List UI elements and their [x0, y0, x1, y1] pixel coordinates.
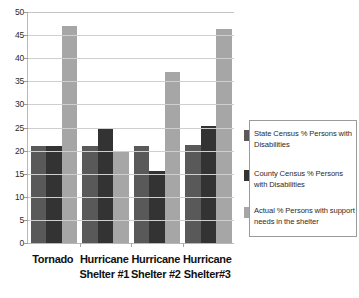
y-axis-tick-mark: [24, 35, 28, 36]
bar[interactable]: [165, 72, 181, 243]
category-label-line1: Hurricane: [80, 253, 129, 265]
legend-item[interactable]: Actual % Persons with support needs in t…: [250, 206, 358, 227]
y-axis-tick-label: 0: [0, 239, 24, 248]
bar-chart: 50454035302520151050 TornadoHurricaneShe…: [0, 0, 359, 298]
plot-wrapper: 50454035302520151050 TornadoHurricaneShe…: [0, 0, 240, 298]
x-axis-tick-mark: [131, 243, 132, 247]
legend-item[interactable]: County Census % Persons with Disabilitie…: [250, 169, 358, 190]
x-axis-tick-mark: [80, 243, 81, 247]
y-axis-tick-label: 20: [0, 147, 24, 156]
bar[interactable]: [216, 29, 232, 243]
legend-label: State Census % Persons with Disabilities: [254, 129, 358, 150]
gridline: [28, 151, 234, 152]
y-axis-tick-mark: [24, 58, 28, 59]
gridline: [28, 174, 234, 175]
y-axis-tick-label: 10: [0, 193, 24, 202]
y-axis-tick-label: 30: [0, 100, 24, 109]
bar[interactable]: [31, 146, 47, 243]
x-axis-tick-mark: [183, 243, 184, 247]
y-axis-tick-mark: [24, 220, 28, 221]
bar[interactable]: [98, 128, 114, 243]
y-axis-tick-label: 45: [0, 31, 24, 40]
legend-label: Actual % Persons with support needs in t…: [254, 206, 358, 227]
y-axis-tick-mark: [24, 81, 28, 82]
legend-color-swatch: [244, 170, 249, 181]
legend-item[interactable]: State Census % Persons with Disabilities: [250, 129, 358, 150]
y-axis-tick-label: 15: [0, 170, 24, 179]
gridline: [28, 104, 234, 105]
legend-color-swatch: [244, 207, 249, 218]
bar[interactable]: [185, 145, 201, 243]
category-label-line2: Shelter#3: [177, 267, 239, 282]
y-axis-tick-label: 35: [0, 77, 24, 86]
gridline: [28, 81, 234, 82]
gridline: [28, 128, 234, 129]
plot-area: [27, 12, 234, 244]
bar[interactable]: [134, 146, 150, 243]
y-axis-tick-mark: [24, 151, 28, 152]
y-axis-tick-labels: 50454035302520151050: [0, 0, 24, 298]
gridline: [28, 220, 234, 221]
x-axis-category-labels: TornadoHurricaneShelter #1HurricaneShelt…: [27, 252, 233, 298]
y-axis-tick-mark: [24, 104, 28, 105]
legend-color-swatch: [244, 130, 249, 141]
y-axis-tick-label: 5: [0, 216, 24, 225]
category-label-line1: Tornado: [32, 253, 73, 265]
y-axis-tick-label: 25: [0, 124, 24, 133]
legend-label: County Census % Persons with Disabilitie…: [254, 169, 358, 190]
bar[interactable]: [82, 146, 98, 243]
y-axis-tick-label: 50: [0, 8, 24, 17]
gridline: [28, 35, 234, 36]
y-axis-tick-mark: [24, 197, 28, 198]
y-axis-tick-mark: [24, 174, 28, 175]
gridline: [28, 197, 234, 198]
bar[interactable]: [149, 171, 165, 243]
gridline: [28, 58, 234, 59]
y-axis-tick-mark: [24, 12, 28, 13]
x-axis-category-label: HurricaneShelter#3: [177, 252, 239, 282]
bar[interactable]: [46, 146, 62, 243]
chart-legend: State Census % Persons with Disabilities…: [249, 120, 357, 237]
category-label-line1: Hurricane: [131, 253, 180, 265]
bar[interactable]: [201, 126, 217, 243]
y-axis-tick-label: 40: [0, 54, 24, 63]
y-axis-tick-mark: [24, 128, 28, 129]
y-axis-tick-mark: [24, 243, 28, 244]
category-label-line1: Hurricane: [183, 253, 232, 265]
gridline: [28, 12, 234, 13]
